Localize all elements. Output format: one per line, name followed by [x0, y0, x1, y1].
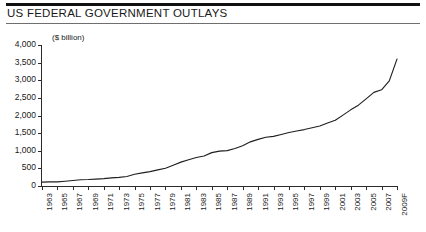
- line-series: [0, 0, 426, 232]
- series-line: [42, 59, 397, 182]
- chart-figure: US FEDERAL GOVERNMENT OUTLAYS ($ billion…: [0, 0, 426, 232]
